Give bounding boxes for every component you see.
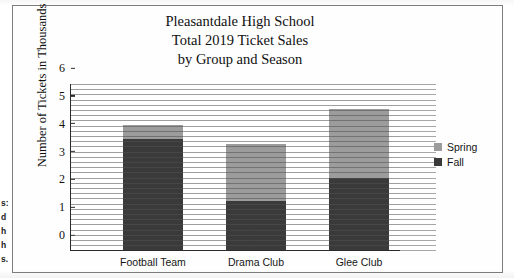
y-tick-mark [71,234,75,235]
x-axis-label-football-team: Football Team [98,256,208,268]
bar-segment-fall[interactable] [226,201,286,250]
plot-area: 0123456 Football TeamDrama ClubGlee Club [70,84,400,251]
margin-cutoff-text: s: d h h s. [1,196,12,266]
y-tick-label: 6 [35,61,71,76]
legend-swatch-spring-icon [434,143,442,151]
chart-title-line-1: Pleasantdale High School [90,12,390,31]
chart-title: Pleasantdale High School Total 2019 Tick… [90,12,390,69]
chart-title-line-3: by Group and Season [90,50,390,69]
bar-segment-spring[interactable] [123,125,183,139]
legend-item-spring[interactable]: Spring [434,139,477,154]
legend-label-fall: Fall [447,156,464,168]
x-axis-label-glee-club: Glee Club [304,256,414,268]
margin-fragment: h [1,238,12,252]
bar-segment-fall[interactable] [329,178,389,250]
legend-item-fall[interactable]: Fall [434,154,477,169]
y-tick-mark [71,151,75,152]
bar-segment-fall[interactable] [123,139,183,250]
y-tick-label: 0 [35,228,71,243]
legend: Spring Fall [434,139,477,169]
bar-segment-spring[interactable] [226,144,286,201]
margin-fragment: h [1,224,12,238]
bar-segment-spring[interactable] [329,109,389,177]
margin-fragment: s: [1,196,12,210]
legend-swatch-fall-icon [434,158,442,166]
y-tick-mark [71,207,75,208]
bar-group[interactable] [329,83,389,250]
y-tick-mark [71,123,75,124]
margin-fragment: d [1,210,12,224]
y-tick-mark [71,67,75,68]
y-tick-label: 1 [35,200,71,215]
bar-group[interactable] [226,83,286,250]
bar-group[interactable] [123,83,183,250]
chart-title-line-2: Total 2019 Ticket Sales [90,31,390,50]
margin-fragment: s. [1,252,12,266]
x-axis-label-drama-club: Drama Club [201,256,311,268]
y-tick-label: 5 [35,88,71,103]
y-tick-mark [71,95,75,96]
y-tick-label: 2 [35,172,71,187]
legend-label-spring: Spring [447,141,477,153]
y-tick-mark [71,179,75,180]
y-tick-label: 4 [35,116,71,131]
y-tick-label: 3 [35,144,71,159]
